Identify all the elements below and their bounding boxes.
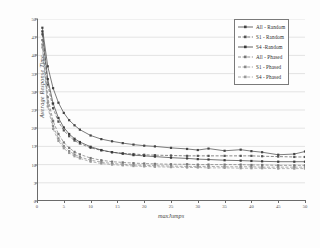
data-point-marker [197,149,199,151]
data-point-marker [304,156,305,158]
y-tick-mark [35,164,38,165]
data-point-marker [143,155,145,157]
data-point-marker [47,78,49,80]
data-point-marker [143,165,145,167]
data-point-marker [79,141,81,143]
data-point-marker [100,162,102,164]
chart-figure: 05101520253035404550 0510152025303540455… [0,0,320,248]
data-point-marker [154,166,156,168]
chart-legend: All - RandomS1 - RandomS4 -RandomAll - P… [234,19,289,85]
x-tick-label: 10 [81,204,101,209]
data-point-marker [100,138,102,140]
y-tick-mark [35,182,38,183]
data-point-marker [100,149,102,151]
data-point-marker [250,150,252,152]
data-point-marker [63,141,65,143]
data-point-marker [224,167,226,169]
data-point-marker [304,150,305,152]
data-point-marker [186,148,188,150]
data-point-marker [154,145,156,147]
data-point-marker [68,133,70,135]
x-tick-label: 50 [295,204,315,209]
data-point-marker [132,154,134,156]
data-point-marker [186,166,188,168]
data-point-marker [304,161,305,163]
data-point-marker [63,129,65,131]
legend-item-2[interactable]: S4 -Random [237,42,285,52]
legend-item-5[interactable]: S4 - Phased [237,72,285,82]
data-point-marker [57,117,59,119]
data-point-marker [240,164,242,166]
legend-marker-icon [237,53,254,61]
data-point-marker [293,168,295,170]
y-tick-label: 20 [14,126,36,131]
x-tick-mark [144,200,145,203]
x-tick-mark [305,200,306,203]
data-point-marker [73,138,75,140]
y-tick-label: 25 [14,108,36,113]
data-point-marker [154,155,156,157]
x-tick-mark [225,200,226,203]
legend-label: S1 - Random [256,34,284,40]
data-point-marker [52,128,54,130]
y-tick-label: 10 [14,162,36,167]
data-point-marker [90,134,92,136]
x-tick-label: 40 [241,204,261,209]
data-point-marker [122,153,124,155]
data-point-marker [293,153,295,155]
legend-label: S4 -Random [256,44,283,50]
data-point-marker [240,160,242,162]
data-point-marker [261,155,263,157]
data-point-marker [197,158,199,160]
data-point-marker [47,105,49,107]
data-point-marker [186,155,188,157]
legend-marker-icon [237,73,254,81]
data-point-marker [170,166,172,168]
data-point-marker [90,157,92,159]
legend-label: All - Random [256,24,285,30]
data-point-marker [170,157,172,159]
data-point-marker [132,143,134,145]
data-point-marker [57,133,59,135]
legend-marker-icon [237,23,254,31]
legend-label: S4 - Phased [256,74,281,80]
legend-item-0[interactable]: All - Random [237,22,285,32]
data-point-marker [250,155,252,157]
y-tick-label: 35 [14,71,36,76]
x-tick-mark [91,200,92,203]
x-tick-mark [198,200,199,203]
y-tick-label: 15 [14,144,36,149]
data-point-marker [207,167,209,169]
data-point-marker [207,155,209,157]
data-point-marker [52,102,54,104]
data-point-marker [79,153,81,155]
legend-item-1[interactable]: S1 - Random [237,32,285,42]
x-tick-mark [278,200,279,203]
data-point-marker [240,149,242,151]
x-tick-mark [117,200,118,203]
y-tick-label: 5 [14,180,36,185]
data-point-marker [304,168,305,170]
data-point-marker [52,87,54,89]
data-point-marker [57,140,59,142]
data-point-marker [90,161,92,163]
data-point-marker [79,129,81,131]
data-point-marker [68,119,70,121]
x-tick-label: 20 [134,204,154,209]
x-tick-label: 0 [27,204,47,209]
data-point-marker [250,167,252,169]
x-tick-label: 5 [54,204,74,209]
legend-marker-icon [237,43,254,51]
legend-item-3[interactable]: All - Phased [237,52,285,62]
legend-marker-icon [237,63,254,71]
x-tick-label: 45 [268,204,288,209]
data-point-marker [122,164,124,166]
legend-marker-icon [237,33,254,41]
legend-item-4[interactable]: S1 - Phased [237,62,285,72]
data-point-marker [57,102,59,104]
data-point-marker [47,65,49,67]
y-tick-label: 50 [14,17,36,22]
data-point-marker [68,152,70,154]
data-point-marker [63,126,65,128]
data-point-marker [170,154,172,156]
